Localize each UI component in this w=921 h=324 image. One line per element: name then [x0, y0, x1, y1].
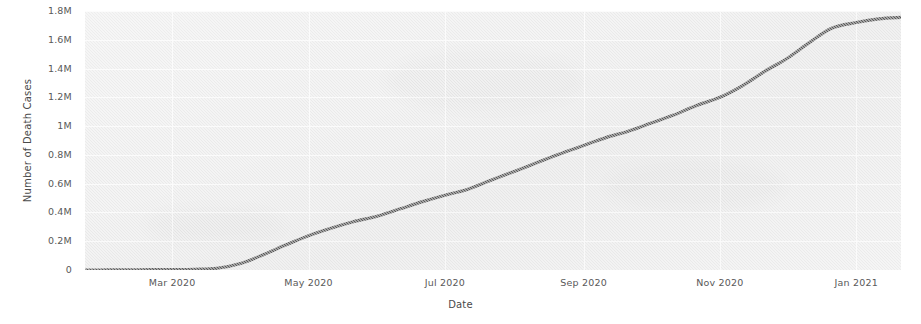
x-axis-tick-labels: Mar 2020May 2020Jul 2020Sep 2020Nov 2020…	[0, 0, 921, 324]
x-axis-tick-label: Jul 2020	[425, 277, 465, 288]
x-axis-title: Date	[0, 299, 921, 310]
x-axis-tick-label: May 2020	[284, 277, 332, 288]
x-axis-tick-label: Nov 2020	[696, 277, 743, 288]
x-axis-tick-label: Sep 2020	[560, 277, 607, 288]
x-axis-tick-label: Mar 2020	[149, 277, 196, 288]
chart-figure: Number of Death Cases 1.8M1.6M1.4M1.2M1M…	[0, 0, 921, 324]
x-axis-tick-label: Jan 2021	[835, 277, 878, 288]
